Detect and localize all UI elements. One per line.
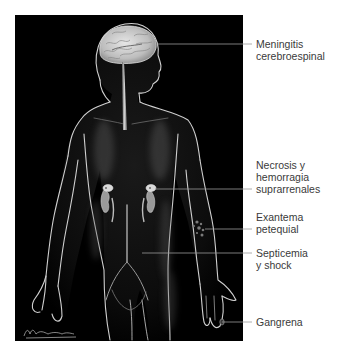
label-necrosis-line-3: suprarrenales xyxy=(256,183,320,195)
label-exantema: Exantema petequial xyxy=(256,211,303,235)
label-septicemia-line-2: y shock xyxy=(256,259,308,271)
label-septicemia-line-1: Septicemia xyxy=(256,247,308,259)
label-exantema-line-1: Exantema xyxy=(256,211,303,223)
label-necrosis: Necrosis y hemorragia suprarrenales xyxy=(256,159,320,195)
label-gangrena-line-1: Gangrena xyxy=(256,316,303,328)
label-septicemia: Septicemia y shock xyxy=(256,247,308,271)
label-meningitis: Meningitis cerebroespinal xyxy=(256,38,325,62)
label-gangrena: Gangrena xyxy=(256,316,303,328)
label-necrosis-line-2: hemorragia xyxy=(256,171,320,183)
label-exantema-line-2: petequial xyxy=(256,223,303,235)
label-necrosis-line-1: Necrosis y xyxy=(256,159,320,171)
label-meningitis-line-2: cerebroespinal xyxy=(256,50,325,62)
label-meningitis-line-1: Meningitis xyxy=(256,38,325,50)
